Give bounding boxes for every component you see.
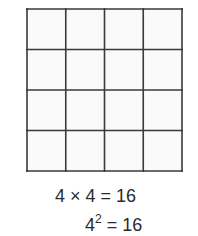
equation-multiplication-text: 4 × 4 = 16 <box>55 186 136 206</box>
equation-result: = 16 <box>102 215 143 235</box>
equation-exponent: 2 <box>95 212 102 226</box>
square-equation: 42 = 16 <box>85 216 142 234</box>
four-by-four-grid <box>26 8 183 172</box>
equation-base: 4 <box>85 215 95 235</box>
grid-drawing <box>26 8 183 172</box>
multiplication-equation: 4 × 4 = 16 <box>55 187 136 205</box>
